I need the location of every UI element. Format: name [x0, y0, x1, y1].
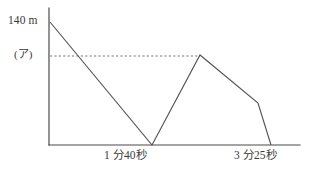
y-axis-max-label: 140 m [8, 15, 38, 27]
distance-time-graph: 140 m (ア) 1 分40秒 3 分25秒 [0, 0, 313, 171]
y-axis-guide-label: (ア) [14, 49, 32, 60]
data-polyline [50, 22, 271, 145]
graph-canvas [0, 0, 313, 171]
x-axis-tick-label-1: 1 分40秒 [104, 150, 147, 162]
x-axis-tick-label-2: 3 分25秒 [234, 150, 277, 162]
